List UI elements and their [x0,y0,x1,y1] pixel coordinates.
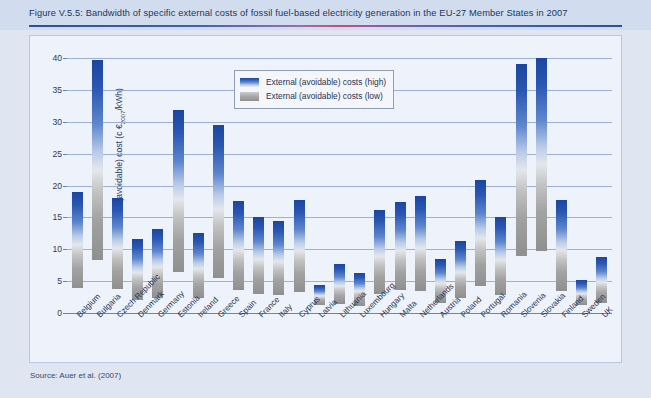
y-tick-label-15: 15 [22,212,62,222]
y-tick-label-0: 0 [22,308,62,318]
legend-swatch-low-icon [240,92,259,101]
y-tick-label-35: 35 [22,85,62,95]
legend-label-low: External (avoidable) costs (low) [266,91,383,101]
bar-bulgaria[interactable] [92,60,103,260]
bar-romania[interactable] [495,217,506,295]
source-note: Source: Auer et al. (2007) [30,371,121,380]
bar-malta[interactable] [395,202,406,290]
title-underline-rule [29,25,622,27]
bar-hungary[interactable] [374,210,385,294]
chart-panel: External (avoidable) cost (c €2007/kWh) … [29,35,622,363]
y-tick-label-5: 5 [22,276,62,286]
bar-finland[interactable] [556,200,567,291]
bar-portugal[interactable] [475,180,486,286]
bar-italy[interactable] [273,221,284,294]
figure-title: Figure V.5.5: Bandwidth of specific exte… [29,8,568,18]
bar-spain[interactable] [233,201,244,290]
bar-greece[interactable] [213,125,224,278]
y-tick-label-25: 25 [22,149,62,159]
y-tick-label-10: 10 [22,244,62,254]
bar-ireland[interactable] [193,233,204,297]
bar-lithuania[interactable] [334,264,345,304]
figure-page: Figure V.5.5: Bandwidth of specific exte… [0,0,651,398]
legend-item-low[interactable]: External (avoidable) costs (low) [240,89,386,103]
y-tick-label-20: 20 [22,181,62,191]
bar-poland[interactable] [455,241,466,298]
bar-czech-republic[interactable] [112,198,123,289]
bar-germany[interactable] [152,229,163,298]
legend-item-high[interactable]: External (avoidable) costs (high) [240,75,386,89]
bar-france[interactable] [253,217,264,294]
legend-label-high: External (avoidable) costs (high) [266,77,386,87]
y-tick-label-30: 30 [22,117,62,127]
bar-belgium[interactable] [72,192,83,288]
x-axis-labels-group: BelgiumBulgariaCzech RepublicDenmarkGerm… [67,313,612,363]
bar-netherlands[interactable] [415,196,426,291]
legend-swatch-high-icon [240,78,259,87]
bar-slovakia[interactable] [536,58,547,251]
chart-legend: External (avoidable) costs (high)Externa… [234,70,394,109]
bar-estonia[interactable] [173,110,184,273]
bar-slovenia[interactable] [516,64,527,257]
y-tick-label-40: 40 [22,53,62,63]
bar-cyprus[interactable] [294,200,305,292]
title-band: Figure V.5.5: Bandwidth of specific exte… [0,0,651,30]
